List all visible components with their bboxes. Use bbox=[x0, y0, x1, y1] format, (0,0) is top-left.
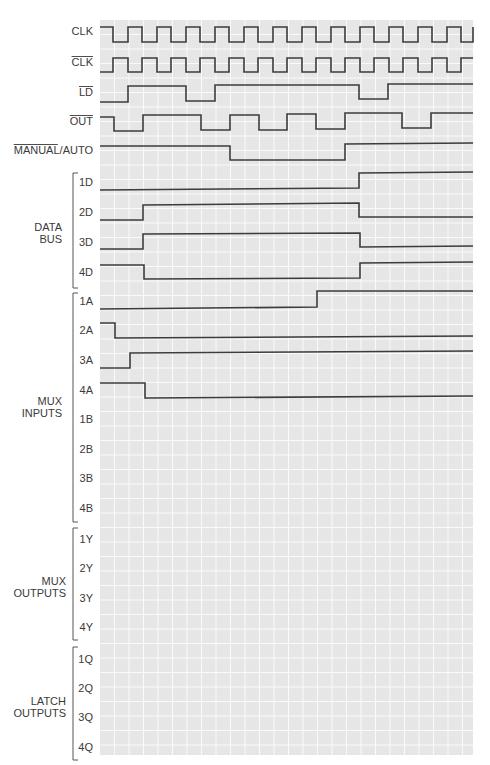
mux-outputs-bracket bbox=[73, 528, 78, 640]
signal-label-4b: 4B bbox=[80, 502, 93, 514]
signal-label-2a: 2A bbox=[80, 324, 94, 336]
signal-label-3a: 3A bbox=[80, 354, 94, 366]
signal-label-2q: 2Q bbox=[78, 682, 93, 694]
group-labels: DATABUSMUXINPUTSMUXOUTPUTSLATCHOUTPUTS bbox=[13, 173, 78, 760]
signal-label-3q: 3Q bbox=[78, 711, 93, 723]
signal-label-4q: 4Q bbox=[78, 741, 93, 753]
mux-outputs-label: MUX bbox=[42, 575, 67, 587]
data-bus-label: DATA bbox=[34, 221, 62, 233]
data-bus-label: BUS bbox=[39, 233, 62, 245]
signal-label-2b: 2B bbox=[80, 443, 93, 455]
signal-label-1a: 1A bbox=[80, 295, 94, 307]
signal-label-4d: 4D bbox=[79, 266, 93, 278]
signal-label-1d: 1D bbox=[79, 176, 93, 188]
mux-outputs-label: OUTPUTS bbox=[13, 587, 66, 599]
timing-diagram: CLKCLKLDOUTMANUAL/AUTO1D2D3D4D1A2A3A4A1B… bbox=[0, 0, 490, 765]
signal-label-2y: 2Y bbox=[80, 562, 94, 574]
signal-label-1y: 1Y bbox=[80, 533, 94, 545]
signal-label-1q: 1Q bbox=[78, 653, 93, 665]
signal-label-1b: 1B bbox=[80, 413, 93, 425]
latch-outputs-label: OUTPUTS bbox=[13, 707, 66, 719]
mux-inputs-label: INPUTS bbox=[22, 407, 62, 419]
signal-label-3b: 3B bbox=[80, 472, 93, 484]
signal-label-3y: 3Y bbox=[80, 592, 94, 604]
signal-labels: CLKCLKLDOUTMANUAL/AUTO1D2D3D4D1A2A3A4A1B… bbox=[14, 25, 94, 753]
latch-outputs-label: LATCH bbox=[31, 695, 66, 707]
signal-label-clk: CLK bbox=[72, 25, 94, 37]
signal-label-clk-bar: CLK bbox=[72, 56, 94, 68]
mux-inputs-label: MUX bbox=[38, 395, 63, 407]
data-bus-bracket bbox=[73, 173, 78, 288]
signal-label-4a: 4A bbox=[80, 384, 94, 396]
latch-outputs-bracket bbox=[73, 647, 78, 760]
mux-inputs-bracket bbox=[73, 293, 78, 522]
signal-label-manual-bar-auto: MANUAL/AUTO bbox=[14, 144, 94, 156]
signal-label-4y: 4Y bbox=[80, 621, 94, 633]
signal-label-out-bar: OUT bbox=[70, 115, 94, 127]
signal-label-3d: 3D bbox=[79, 236, 93, 248]
signal-label-2d: 2D bbox=[79, 206, 93, 218]
signal-label-ld-bar: LD bbox=[79, 86, 93, 98]
